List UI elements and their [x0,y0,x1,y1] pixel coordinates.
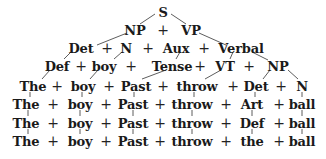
tree-node: boy [71,80,96,93]
plus-operator: + [194,59,206,73]
plus-operator: + [47,116,59,130]
plus-operator: + [100,116,112,130]
tree-node: Aux [163,42,190,55]
tree-node: Past [118,135,148,148]
plus-operator: + [273,116,285,130]
plus-operator: + [47,134,59,148]
tree-node: S [158,6,167,19]
tree-node: N [296,80,308,93]
tree-node: Det [244,80,269,93]
tree-node: boy [92,60,117,73]
tree-node: ball [289,117,316,130]
tree-node: throw [171,117,212,130]
tree-node: N [120,42,132,55]
tree-node: Def [240,117,265,130]
plus-operator: + [154,134,166,148]
plus-operator: + [154,116,166,130]
tree-node: throw [176,80,217,93]
tree-node: boy [68,117,93,130]
plus-operator: + [51,79,63,93]
tree-node: The [13,135,40,148]
tree-node: boy [68,135,93,148]
tree-node: Det [69,42,94,55]
derivation-tree-diagram: SNP+VPDet+N+Aux+VerbalDef+boy+Tense+VT+N… [0,0,326,159]
tree-node: NP [267,60,288,73]
plus-operator: + [100,134,112,148]
tree-node: Past [121,80,151,93]
plus-operator: + [220,116,232,130]
tree-node: Tense [152,60,193,73]
tree-node: boy [68,98,93,111]
tree-node: Verbal [218,42,263,55]
tree-node: Art [241,98,263,111]
plus-operator: + [220,97,232,111]
tree-node: Def [45,60,70,73]
plus-operator: + [243,59,255,73]
plus-operator: + [75,59,87,73]
plus-operator: + [157,79,169,93]
plus-operator: + [142,41,154,55]
plus-operator: + [227,79,239,93]
tree-node: VP [181,24,200,37]
plus-operator: + [275,79,287,93]
plus-operator: + [157,23,169,37]
tree-node: throw [171,98,212,111]
tree-node: throw [171,135,212,148]
plus-operator: + [154,97,166,111]
tree-node: Past [118,117,148,130]
tree-node: VT [215,60,234,73]
plus-operator: + [220,134,232,148]
tree-node: Past [118,98,148,111]
plus-operator: + [101,41,113,55]
plus-operator: + [100,97,112,111]
tree-node: ball [289,98,316,111]
plus-operator: + [47,97,59,111]
tree-node: the [240,135,263,148]
tree-node: The [13,117,40,130]
plus-operator: + [198,41,210,55]
plus-operator: + [103,79,115,93]
tree-node: The [20,80,47,93]
tree-node: The [13,98,40,111]
tree-node: NP [124,24,145,37]
tree-node: ball [289,135,316,148]
plus-operator: + [273,134,285,148]
plus-operator: + [273,97,285,111]
plus-operator: + [125,59,137,73]
